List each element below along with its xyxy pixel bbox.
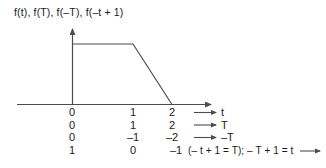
figure-container: f(t), f(T), f(–T), f(–t + 1) 0 1 2 t 0 1…	[0, 0, 326, 168]
waveform-curve	[73, 44, 173, 105]
plot-canvas	[0, 0, 326, 168]
row-variable-T: T	[221, 119, 228, 131]
tick-label-row-t-1: 1	[130, 106, 136, 118]
tick-label-row-shifted-2: –1	[170, 144, 182, 156]
tick-label-row-shifted-0: 1	[69, 144, 75, 156]
row-variable-t: t	[221, 106, 224, 118]
tick-label-row-t-2: 2	[169, 106, 175, 118]
tick-label-row-neg-T-2: –2	[166, 131, 178, 143]
tick-label-row-t-0: 0	[69, 106, 75, 118]
tick-label-row-shifted-1: 0	[130, 144, 136, 156]
tick-label-row-T-1: 1	[130, 119, 136, 131]
row-variable-neg-T: –T	[221, 131, 234, 143]
tick-label-row-neg-T-1: –1	[127, 131, 139, 143]
figure-title: f(t), f(T), f(–T), f(–t + 1)	[14, 6, 124, 18]
row-variable-shifted: (– t + 1 = T); – T + 1 = t	[188, 145, 293, 156]
tick-label-row-neg-T-0: 0	[69, 131, 75, 143]
tick-label-row-T-2: 2	[169, 119, 175, 131]
tick-label-row-T-0: 0	[69, 119, 75, 131]
